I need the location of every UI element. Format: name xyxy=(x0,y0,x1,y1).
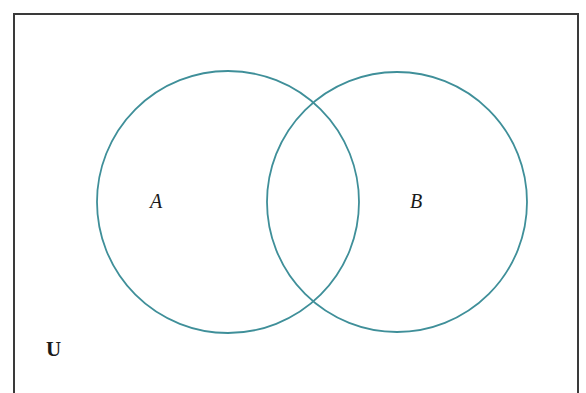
set-a-circle xyxy=(97,71,359,333)
universe-label: U xyxy=(46,337,61,361)
set-a-label: A xyxy=(148,190,163,212)
universe-frame xyxy=(14,14,578,393)
set-b-circle xyxy=(267,72,527,332)
venn-diagram: A B U xyxy=(0,0,586,393)
set-b-label: B xyxy=(410,190,422,212)
